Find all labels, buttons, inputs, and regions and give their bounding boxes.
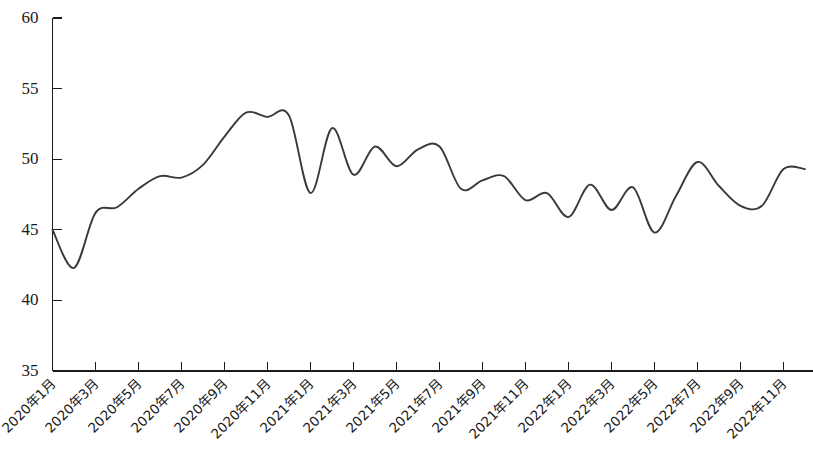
- y-axis-tick-label: 45: [22, 220, 39, 239]
- chart-canvas: 354045505560 2020年1月2020年3月2020年5月2020年7…: [0, 0, 813, 472]
- y-axis-tick-label: 60: [22, 8, 39, 27]
- line-chart-figure: 354045505560 2020年1月2020年3月2020年5月2020年7…: [0, 0, 813, 472]
- y-axis-tick-labels: 354045505560: [22, 8, 39, 380]
- y-axis-tick-label: 40: [22, 290, 39, 309]
- y-axis-tick-label: 55: [22, 79, 39, 98]
- y-axis-tick-marks: [53, 18, 62, 300]
- y-axis-tick-label: 35: [22, 361, 39, 380]
- x-axis-tick-labels: 2020年1月2020年3月2020年5月2020年7月2020年9月2020年…: [0, 376, 790, 442]
- data-series-line: [53, 110, 806, 268]
- x-axis-tick-marks: [53, 362, 784, 371]
- y-axis-tick-label: 50: [22, 149, 39, 168]
